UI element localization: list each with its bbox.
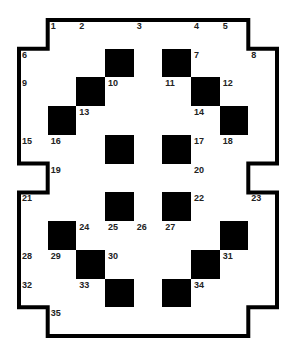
crossword-cell[interactable]: 35 xyxy=(48,307,78,337)
clue-number: 30 xyxy=(108,252,118,261)
crossword-cell[interactable]: 23 xyxy=(248,192,278,222)
crossword-cell[interactable]: 9 xyxy=(19,77,49,107)
crossword-cell[interactable] xyxy=(76,192,106,222)
crossword-cell[interactable] xyxy=(220,164,250,194)
black-square xyxy=(76,250,106,280)
black-square xyxy=(220,106,250,136)
crossword-cell[interactable]: 29 xyxy=(48,250,78,280)
black-square xyxy=(191,77,221,107)
crossword-cell[interactable] xyxy=(162,106,192,136)
crossword-cell[interactable] xyxy=(105,20,135,50)
crossword-cell[interactable]: 7 xyxy=(191,49,221,79)
clue-number: 28 xyxy=(22,252,32,261)
crossword-cell[interactable]: 1 xyxy=(48,20,78,50)
black-square xyxy=(105,192,135,222)
crossword-cell[interactable] xyxy=(134,77,164,107)
crossword-cell[interactable] xyxy=(48,49,78,79)
crossword-cell[interactable]: 20 xyxy=(191,164,221,194)
crossword-cell[interactable] xyxy=(248,106,278,136)
clue-number: 13 xyxy=(79,108,89,117)
crossword-cell[interactable] xyxy=(220,192,250,222)
crossword-cell[interactable]: 13 xyxy=(76,106,106,136)
crossword-cell[interactable]: 28 xyxy=(19,250,49,280)
clue-number: 17 xyxy=(194,137,204,146)
crossword-cell[interactable] xyxy=(134,307,164,337)
crossword-cell[interactable] xyxy=(248,221,278,251)
clue-number: 10 xyxy=(108,79,118,88)
clue-number: 3 xyxy=(137,22,142,31)
crossword-cell[interactable]: 14 xyxy=(191,106,221,136)
crossword-cell[interactable] xyxy=(134,106,164,136)
crossword-cell[interactable]: 26 xyxy=(134,221,164,251)
crossword-cell[interactable] xyxy=(48,77,78,107)
crossword-cell[interactable] xyxy=(105,307,135,337)
clue-number: 18 xyxy=(223,137,233,146)
crossword-cell[interactable]: 21 xyxy=(19,192,49,222)
crossword-cell[interactable] xyxy=(105,106,135,136)
crossword-cell[interactable]: 16 xyxy=(48,135,78,165)
crossword-cell[interactable]: 32 xyxy=(19,279,49,309)
crossword-cell[interactable] xyxy=(134,49,164,79)
crossword-cell[interactable]: 22 xyxy=(191,192,221,222)
clue-number: 25 xyxy=(108,223,118,232)
crossword-cell[interactable] xyxy=(19,106,49,136)
clue-number: 21 xyxy=(22,194,32,203)
crossword-cell[interactable]: 5 xyxy=(220,20,250,50)
crossword-cell[interactable] xyxy=(248,250,278,280)
crossword-cell[interactable]: 8 xyxy=(248,49,278,79)
crossword-cell[interactable]: 33 xyxy=(76,279,106,309)
crossword-cell[interactable] xyxy=(162,20,192,50)
crossword-cell[interactable] xyxy=(220,49,250,79)
crossword-cell[interactable] xyxy=(76,49,106,79)
crossword-cell[interactable] xyxy=(248,77,278,107)
crossword-cell[interactable] xyxy=(105,164,134,193)
crossword-cell[interactable]: 15 xyxy=(19,135,49,165)
crossword-cell[interactable] xyxy=(19,221,49,251)
clue-number: 27 xyxy=(165,223,175,232)
black-square xyxy=(162,135,192,165)
clue-number: 12 xyxy=(223,79,233,88)
clue-number: 26 xyxy=(137,223,147,232)
black-square xyxy=(48,106,78,136)
crossword-cell[interactable]: 6 xyxy=(19,49,49,79)
clue-number: 33 xyxy=(79,281,89,290)
crossword-cell[interactable]: 25 xyxy=(105,221,135,251)
crossword-cell[interactable] xyxy=(162,307,192,337)
crossword-cell[interactable]: 27 xyxy=(162,221,192,251)
crossword-cell[interactable] xyxy=(134,192,163,221)
crossword-cell[interactable]: 19 xyxy=(48,164,78,194)
crossword-cell[interactable]: 18 xyxy=(220,135,250,165)
crossword-cell[interactable] xyxy=(48,279,78,309)
black-square xyxy=(105,135,135,165)
crossword-cell[interactable] xyxy=(48,192,78,222)
crossword-cell[interactable] xyxy=(191,307,221,337)
crossword-cell[interactable]: 17 xyxy=(191,135,221,165)
crossword-cell[interactable]: 31 xyxy=(220,250,250,280)
crossword-cell[interactable] xyxy=(220,279,250,309)
crossword-cell[interactable] xyxy=(76,307,106,337)
crossword-cell[interactable] xyxy=(220,307,250,337)
crossword-cell[interactable]: 24 xyxy=(76,221,106,251)
crossword-cell[interactable] xyxy=(134,250,164,280)
crossword-cell[interactable] xyxy=(134,135,163,164)
crossword-cell[interactable] xyxy=(134,164,163,193)
crossword-cell[interactable] xyxy=(248,279,278,309)
crossword-cell[interactable] xyxy=(76,135,106,165)
black-square xyxy=(105,279,135,309)
crossword-cell[interactable] xyxy=(76,164,106,194)
crossword-cell[interactable]: 34 xyxy=(191,279,221,309)
crossword-cell[interactable]: 4 xyxy=(191,20,221,50)
crossword-cell[interactable] xyxy=(248,135,278,165)
crossword-cell[interactable]: 2 xyxy=(76,20,106,50)
crossword-cell[interactable] xyxy=(162,164,191,193)
crossword-cell[interactable]: 30 xyxy=(105,250,135,280)
crossword-cell[interactable]: 12 xyxy=(220,77,250,107)
crossword-cell[interactable] xyxy=(162,250,192,280)
clue-number: 24 xyxy=(79,223,89,232)
crossword-cell[interactable] xyxy=(134,279,164,309)
crossword-cell[interactable]: 3 xyxy=(134,20,164,50)
crossword-cell[interactable]: 11 xyxy=(162,77,192,107)
clue-number: 7 xyxy=(194,51,199,60)
crossword-cell[interactable] xyxy=(191,221,221,251)
crossword-cell[interactable]: 10 xyxy=(105,77,135,107)
